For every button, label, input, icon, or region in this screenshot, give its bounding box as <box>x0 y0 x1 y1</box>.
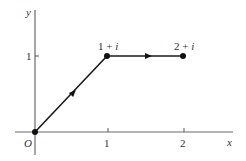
origin-label: O <box>24 138 32 149</box>
point-label-imag: i <box>115 40 118 52</box>
x-tick-label-1: 1 <box>104 138 110 149</box>
point-label-real: 1 <box>98 40 104 52</box>
diagram-canvas <box>0 0 246 161</box>
point-1-plus-i <box>104 53 110 59</box>
x-axis-label: x <box>227 137 232 148</box>
point-label-op: + <box>182 40 188 52</box>
y-axis-label: y <box>26 7 31 18</box>
complex-plane-diagram: y x O 1 2 1 1 + i 2 + i <box>0 0 246 161</box>
direction-arrow-icon <box>145 53 152 59</box>
point-label-imag: i <box>191 40 194 52</box>
point-2-plus-i <box>180 53 186 59</box>
point-label-op: + <box>106 40 112 52</box>
point-label-2-plus-i: 2 + i <box>174 41 194 52</box>
point-label-1-plus-i: 1 + i <box>98 41 118 52</box>
point-label-real: 2 <box>174 40 180 52</box>
y-tick-label-1: 1 <box>26 51 32 62</box>
point-origin <box>32 129 38 135</box>
x-tick-label-2: 2 <box>180 138 186 149</box>
